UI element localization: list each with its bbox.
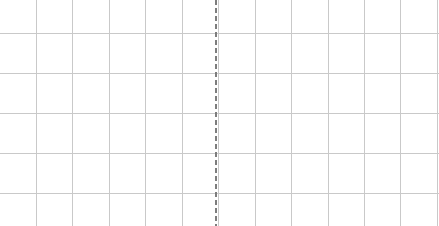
marker-dash (215, 104, 217, 109)
marker-dash (215, 112, 217, 117)
marker-dash (215, 96, 217, 101)
gridline-vertical-8 (328, 0, 329, 226)
marker-dash (215, 224, 217, 226)
gridline-vertical-7 (291, 0, 292, 226)
marker-dash (215, 152, 217, 157)
marker-dash (215, 128, 217, 133)
gridline-vertical-0 (36, 0, 37, 226)
gridline-vertical-11 (437, 0, 438, 226)
gridline-vertical-5 (218, 0, 219, 226)
marker-dash (215, 144, 217, 149)
gridline-vertical-1 (72, 0, 73, 226)
marker-dash (215, 48, 217, 53)
marker-dash (215, 136, 217, 141)
marker-dash (215, 0, 217, 5)
gridline-horizontal-4 (0, 193, 439, 194)
marker-dash (215, 160, 217, 165)
gridline-vertical-4 (182, 0, 183, 226)
chart-canvas (0, 0, 439, 226)
marker-dash (215, 72, 217, 77)
marker-dash (215, 168, 217, 173)
marker-dash (215, 184, 217, 189)
grid-layer (0, 0, 439, 226)
marker-dash (215, 80, 217, 85)
marker-dash (215, 8, 217, 13)
gridline-vertical-9 (364, 0, 365, 226)
vertical-marker-line (215, 0, 217, 226)
gridline-horizontal-0 (0, 33, 439, 34)
marker-dash (215, 200, 217, 205)
marker-dash (215, 216, 217, 221)
gridline-vertical-10 (400, 0, 401, 226)
gridline-horizontal-2 (0, 113, 439, 114)
gridline-vertical-2 (109, 0, 110, 226)
marker-dash (215, 40, 217, 45)
marker-dash (215, 192, 217, 197)
marker-dash (215, 64, 217, 69)
gridline-horizontal-3 (0, 153, 439, 154)
marker-dash (215, 176, 217, 181)
gridline-horizontal-1 (0, 73, 439, 74)
gridline-vertical-3 (145, 0, 146, 226)
marker-dash (215, 56, 217, 61)
marker-dash (215, 208, 217, 213)
gridline-vertical-6 (255, 0, 256, 226)
marker-dash (215, 120, 217, 125)
marker-dash (215, 88, 217, 93)
marker-dash (215, 32, 217, 37)
marker-dash (215, 24, 217, 29)
marker-dash (215, 16, 217, 21)
